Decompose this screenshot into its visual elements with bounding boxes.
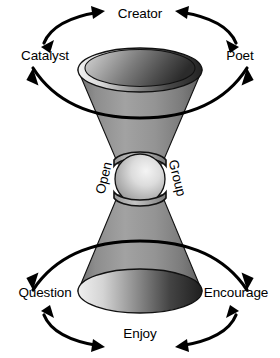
question-enjoy-arc xyxy=(44,315,100,346)
catalyst-creator-arrow xyxy=(44,12,100,43)
enjoy-encourage-arrowhead-left xyxy=(175,339,189,352)
enjoy-encourage-arc xyxy=(180,315,236,346)
center-sphere-group xyxy=(114,152,166,206)
creator-poet-arrowhead-left xyxy=(175,6,189,19)
label-question: Question xyxy=(18,286,71,300)
label-catalyst: Catalyst xyxy=(21,49,69,63)
catalyst-creator-arrowhead-right xyxy=(91,6,105,19)
upper-cone xyxy=(78,48,202,164)
lower-cone xyxy=(78,195,202,313)
enjoy-encourage-arrow xyxy=(180,315,236,346)
question-enjoy-arrowhead-right xyxy=(91,339,105,352)
center-sphere xyxy=(115,154,165,204)
creator-poet-arrow xyxy=(180,12,236,43)
diagram-canvas: Creator Catalyst Poet Open Group Questio… xyxy=(0,0,280,358)
creator-poet-arc xyxy=(180,12,236,43)
label-encourage: Encourage xyxy=(204,286,268,300)
lower-cone-rim xyxy=(78,269,202,313)
label-enjoy: Enjoy xyxy=(123,327,156,341)
label-poet: Poet xyxy=(226,49,253,63)
label-creator: Creator xyxy=(118,7,162,21)
question-enjoy-arrow xyxy=(44,315,100,346)
catalyst-creator-arc xyxy=(44,12,100,43)
upper-cone-inner-mouth xyxy=(85,50,195,87)
